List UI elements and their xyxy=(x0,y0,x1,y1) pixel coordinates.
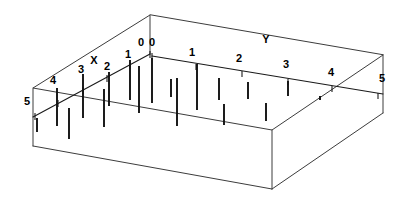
x-tick-label-1: 1 xyxy=(125,48,131,60)
y-tick-label-3: 3 xyxy=(283,58,289,70)
y-axis-line xyxy=(152,56,383,94)
three-d-spike-plot: 0 1 2 3 4 5 0 1 2 3 4 5 X Y xyxy=(0,0,411,212)
x-axis-title: X xyxy=(90,54,98,66)
x-tick-label-2: 2 xyxy=(104,60,110,72)
x-tick-label-0: 0 xyxy=(138,36,144,48)
y-tick-label-4: 4 xyxy=(328,66,335,78)
figure-container: 0 1 2 3 4 5 0 1 2 3 4 5 X Y xyxy=(0,0,411,212)
y-tick-label-5: 5 xyxy=(379,72,385,84)
axis-lines xyxy=(33,54,383,117)
x-tick-label-5: 5 xyxy=(24,95,30,107)
y-tick-label-0: 0 xyxy=(149,36,155,48)
box-bottom-right-edge xyxy=(272,113,383,189)
box-bottom-left-edge xyxy=(33,146,272,189)
y-axis-title: Y xyxy=(262,33,270,45)
x-tick-label-3: 3 xyxy=(78,63,84,75)
x-axis-tick-labels: 0 1 2 3 4 5 xyxy=(24,36,144,107)
y-tick-label-1: 1 xyxy=(189,46,195,58)
y-axis-ticks xyxy=(152,53,378,99)
x-tick-label-4: 4 xyxy=(50,74,57,86)
y-tick-label-2: 2 xyxy=(236,52,242,64)
box-wireframe xyxy=(33,15,383,189)
